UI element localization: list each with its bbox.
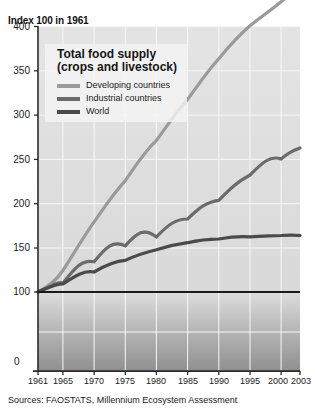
source-note: Sources: FAOSTATS, Millennium Ecosystem … xyxy=(8,395,237,405)
y-tick-label-350: 350 xyxy=(2,65,30,76)
legend-swatch-industrial-countries xyxy=(57,97,80,101)
legend-label-world: World xyxy=(86,106,109,116)
chart-figure: Index 100 in 1961 xyxy=(0,0,315,416)
legend-label-developing-countries: Developing countries xyxy=(86,80,170,90)
x-tick-label-1965: 1965 xyxy=(49,376,77,386)
x-tick-label-1975: 1975 xyxy=(111,376,139,386)
y-tick-label-400: 400 xyxy=(2,21,30,32)
y-tick-label-150: 150 xyxy=(2,242,30,253)
y-tick-label-300: 300 xyxy=(2,109,30,120)
x-tick-label-1970: 1970 xyxy=(80,376,108,386)
legend-heading-line2: (crops and livestock) xyxy=(57,61,177,74)
x-tick-label-1961: 1961 xyxy=(24,376,52,386)
x-tick-label-1995: 1995 xyxy=(236,376,264,386)
x-tick-label-1990: 1990 xyxy=(205,376,233,386)
y-tick-label-200: 200 xyxy=(2,198,30,209)
y-tick-label-250: 250 xyxy=(2,154,30,165)
chart-legend: Total food supply (crops and livestock) … xyxy=(45,44,187,122)
x-tick-label-2003: 2003 xyxy=(287,376,315,386)
legend-heading: Total food supply (crops and livestock) xyxy=(57,48,177,74)
legend-swatch-developing-countries xyxy=(57,84,80,88)
x-tick-label-1985: 1985 xyxy=(174,376,202,386)
legend-swatch-world xyxy=(57,110,80,114)
y-tick-label-100: 100 xyxy=(2,286,30,297)
y-axis-zero-label: 0 xyxy=(14,356,20,367)
x-tick-label-1980: 1980 xyxy=(142,376,170,386)
legend-label-industrial-countries: Industrial countries xyxy=(86,93,162,103)
